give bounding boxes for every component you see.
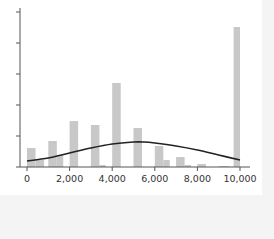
histogram-bar	[163, 160, 169, 167]
histogram-bars	[27, 27, 240, 167]
histogram-bar	[57, 155, 63, 167]
chart-canvas: 02,0004,0006,0008,00010,000	[0, 0, 262, 195]
x-axis-ticks: 02,0004,0006,0008,00010,000	[24, 167, 257, 184]
histogram-bar	[134, 128, 143, 167]
histogram-bar	[70, 121, 79, 167]
histogram-chart: 02,0004,0006,0008,00010,000	[0, 0, 262, 195]
histogram-bar	[176, 157, 185, 167]
histogram-bar	[234, 27, 240, 167]
x-tick-label: 8,000	[184, 173, 211, 184]
histogram-bar	[36, 160, 45, 167]
x-tick-label: 0	[24, 173, 30, 184]
x-tick-label: 6,000	[141, 173, 168, 184]
histogram-bar	[27, 148, 36, 167]
x-tick-label: 4,000	[99, 173, 126, 184]
histogram-bar	[48, 141, 57, 167]
x-tick-label: 2,000	[56, 173, 83, 184]
y-axis-ticks	[16, 12, 20, 167]
histogram-bar	[112, 83, 121, 167]
histogram-bar	[155, 146, 164, 167]
x-tick-label: 10,000	[223, 173, 256, 184]
